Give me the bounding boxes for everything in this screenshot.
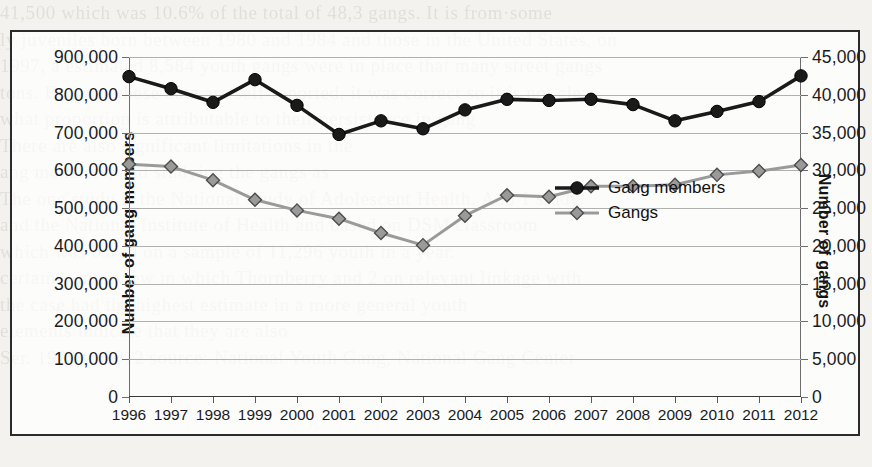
left-axis-tick (122, 95, 129, 96)
right-axis-tick (801, 246, 808, 247)
data-point (627, 98, 639, 110)
right-axis-tick-label: 10,000 (812, 311, 866, 332)
data-point (417, 123, 429, 135)
x-axis-tick (339, 397, 340, 403)
scanned-page: 41,500 which was 10.6% of the total of 4… (0, 0, 872, 467)
x-axis-tick-label: 2011 (742, 406, 775, 424)
right-axis-tick-label: 30,000 (812, 160, 866, 181)
x-axis-tick-label: 1997 (154, 406, 188, 424)
left-axis-tick-label: 900,000 (54, 47, 118, 68)
x-axis-tick-label: 2009 (658, 406, 692, 424)
x-axis-tick (507, 397, 508, 403)
x-axis-tick-label: 2000 (280, 406, 314, 424)
plot-area: 0100,000200,000300,000400,000500,000600,… (129, 57, 801, 397)
right-axis-tick (801, 397, 808, 398)
data-point (248, 193, 261, 206)
x-axis-tick (591, 397, 592, 403)
data-point (753, 95, 765, 107)
data-point (332, 212, 345, 225)
left-axis-tick (122, 57, 129, 58)
data-point (752, 165, 765, 178)
left-axis-tick-label: 800,000 (54, 84, 118, 105)
data-point (206, 174, 219, 187)
data-point (795, 70, 807, 82)
x-axis-tick-label: 2010 (700, 406, 734, 424)
data-point (543, 94, 555, 106)
left-axis-tick (122, 208, 129, 209)
legend-item[interactable]: Gangs (553, 200, 725, 225)
data-point (164, 160, 177, 173)
data-point (374, 227, 387, 240)
data-point (459, 104, 471, 116)
data-point (585, 93, 597, 105)
legend-item[interactable]: Gang members (553, 175, 725, 200)
x-axis-tick (381, 397, 382, 403)
legend-diamond-icon (553, 203, 601, 223)
data-point (249, 73, 261, 85)
x-axis-tick-label: 2001 (322, 406, 356, 424)
right-axis-tick-label: 20,000 (812, 235, 866, 256)
data-point (501, 93, 513, 105)
x-axis-tick (213, 397, 214, 403)
left-axis-tick (122, 359, 129, 360)
x-axis-tick (801, 397, 802, 403)
x-axis-tick-label: 2004 (448, 406, 482, 424)
right-axis-tick (801, 321, 808, 322)
data-point (290, 204, 303, 217)
left-axis-tick-label: 700,000 (54, 122, 118, 143)
left-axis-tick (122, 246, 129, 247)
bleed-line: 41,500 which was 10.6% of the total of 4… (0, 0, 872, 27)
x-axis-tick-label: 2005 (490, 406, 524, 424)
x-axis-tick (717, 397, 718, 403)
left-axis-tick-label: 500,000 (54, 198, 118, 219)
data-point (207, 96, 219, 108)
x-axis-tick-label: 2007 (574, 406, 608, 424)
data-point (291, 99, 303, 111)
right-axis-tick-label: 0 (812, 387, 822, 408)
left-axis-tick (122, 284, 129, 285)
x-axis-tick (255, 397, 256, 403)
right-axis-tick-label: 45,000 (812, 47, 866, 68)
legend-label: Gangs (608, 203, 658, 223)
left-axis-tick (122, 133, 129, 134)
x-axis-tick-label: 2006 (532, 406, 566, 424)
x-axis-tick-label: 2003 (406, 406, 440, 424)
left-axis-tick-label: 0 (108, 387, 118, 408)
x-axis-tick (549, 397, 550, 403)
right-axis-tick (801, 133, 808, 134)
x-axis-tick (297, 397, 298, 403)
data-point (375, 115, 387, 127)
right-axis-tick-label: 40,000 (812, 84, 866, 105)
x-axis-tick-label: 1996 (112, 406, 146, 424)
data-point (333, 128, 345, 140)
right-axis-tick-label: 35,000 (812, 122, 866, 143)
right-axis-tick-label: 25,000 (812, 198, 866, 219)
right-axis-tick (801, 284, 808, 285)
right-axis-tick (801, 57, 808, 58)
data-point (165, 83, 177, 95)
legend-label: Gang members (608, 178, 725, 198)
x-axis-tick (675, 397, 676, 403)
right-axis-tick (801, 359, 808, 360)
x-axis-tick (423, 397, 424, 403)
left-axis-tick (122, 397, 129, 398)
x-axis-tick (633, 397, 634, 403)
left-axis-tick-label: 100,000 (54, 349, 118, 370)
legend-circle-icon (553, 178, 601, 198)
x-axis-tick-label: 2002 (364, 406, 398, 424)
x-axis-tick (759, 397, 760, 403)
series-plot (129, 57, 801, 397)
data-point (711, 105, 723, 117)
x-axis-tick-label: 1999 (238, 406, 272, 424)
left-axis-tick-label: 200,000 (54, 311, 118, 332)
left-axis-tick (122, 321, 129, 322)
right-axis-tick-label: 15,000 (812, 273, 866, 294)
x-axis-tick (171, 397, 172, 403)
right-axis-tick (801, 208, 808, 209)
chart-frame: Number of gang members Number of gangs 0… (10, 30, 860, 436)
chart-legend: Gang membersGangs (553, 175, 725, 225)
data-point (500, 189, 513, 202)
right-axis-tick-label: 5,000 (812, 349, 856, 370)
data-point (123, 70, 135, 82)
x-axis-tick-label: 1998 (196, 406, 230, 424)
